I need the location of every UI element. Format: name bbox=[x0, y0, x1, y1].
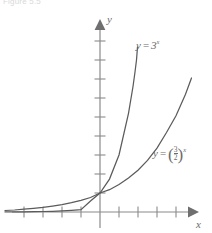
curve-label-three-power-x: y=3x bbox=[136, 39, 160, 51]
x-axis-arrowhead bbox=[188, 207, 199, 218]
curve-label-2-operator: = bbox=[158, 147, 168, 159]
y-axis-label: y bbox=[107, 14, 112, 25]
curve-label-1-exponent: x bbox=[157, 38, 160, 45]
curve-label-2-numerator: 3 bbox=[174, 146, 178, 154]
curve-label-2-fraction: 32 bbox=[174, 146, 178, 163]
y-axis-arrowhead bbox=[95, 19, 106, 30]
curve-label-1-operator: = bbox=[141, 39, 151, 51]
x-axis-label: x bbox=[196, 219, 201, 230]
curve-label-three-halves-power-x: y=(32)x bbox=[153, 146, 186, 163]
curve-label-2-exponent: x bbox=[183, 146, 186, 153]
curve-label-2-denominator: 2 bbox=[174, 153, 178, 162]
coordinate-plot bbox=[0, 0, 212, 233]
curve-three-power-x bbox=[5, 47, 138, 212]
exponential-functions-figure: Figure 5.5 bbox=[0, 0, 212, 233]
